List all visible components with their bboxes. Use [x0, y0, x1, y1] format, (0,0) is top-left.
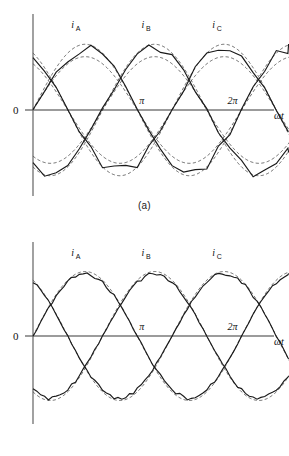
figure-container: 0π2πωtiAiBiC (a) 0π2πωtiAiBiC (b) [0, 0, 289, 456]
waveform-plot-a: 0π2πωtiAiBiC [0, 0, 289, 228]
svg-text:i: i [212, 247, 215, 258]
chart-panel-a: 0π2πωtiAiBiC (a) [0, 0, 289, 228]
x-tick-label-two-pi: 2π [228, 95, 239, 106]
panel-caption-a: (a) [0, 200, 289, 211]
chart-panel-b: 0π2πωtiAiBiC (b) [0, 228, 289, 456]
x-axis-label: ωt [274, 110, 284, 121]
phase-label-b: iB [142, 19, 152, 32]
x-tick-label-pi: π [139, 321, 145, 332]
phase-label-a: iA [71, 247, 81, 260]
x-tick-label-two-pi: 2π [228, 321, 239, 332]
svg-text:i: i [71, 19, 74, 30]
phase-label-c: iC [212, 247, 222, 260]
phase-label-a: iA [71, 19, 81, 32]
x-tick-label-pi: π [139, 95, 145, 106]
waveform-plot-b: 0π2πωtiAiBiC [0, 228, 289, 456]
svg-text:C: C [217, 253, 222, 260]
svg-text:i: i [212, 19, 215, 30]
svg-text:A: A [76, 25, 81, 32]
svg-text:B: B [146, 253, 151, 260]
phase-label-b: iB [142, 247, 152, 260]
svg-text:i: i [142, 247, 145, 258]
x-axis-label: ωt [274, 336, 284, 347]
svg-text:i: i [71, 247, 74, 258]
origin-label: 0 [13, 104, 19, 116]
svg-text:B: B [146, 25, 151, 32]
svg-text:C: C [217, 25, 222, 32]
svg-text:i: i [142, 19, 145, 30]
svg-text:A: A [76, 253, 81, 260]
phase-label-c: iC [212, 19, 222, 32]
origin-label: 0 [13, 330, 19, 342]
